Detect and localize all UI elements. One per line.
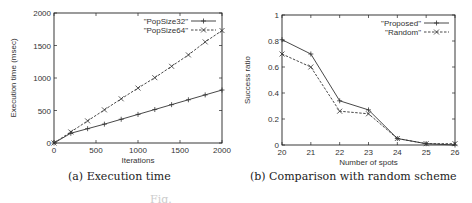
x-tick-label: 1000 — [129, 146, 147, 155]
y-tick-label: 500 — [38, 107, 52, 116]
y-tick-label: 0.4 — [268, 89, 280, 98]
y-axis-label: Success ratio — [243, 55, 252, 104]
caption-a: (a) Execution time — [68, 170, 171, 183]
series-0 — [52, 88, 225, 146]
y-tick-label: 1000 — [33, 74, 51, 83]
chart-execution-time: 05001000150020000500100015002000Iteratio… — [9, 9, 231, 165]
legend-label: "Random" — [385, 28, 421, 37]
x-tick-label: 21 — [306, 148, 315, 157]
plot-frame — [282, 15, 455, 145]
x-tick-label: 1500 — [171, 146, 189, 155]
x-tick-label: 26 — [451, 148, 460, 157]
y-tick-label: 0.8 — [268, 37, 280, 46]
legend-label: "Proposed" — [381, 19, 421, 28]
chart-success-ratio: 2021222324252600.20.40.60.81Number of sp… — [243, 11, 460, 167]
x-axis-label: Number of spots — [339, 158, 398, 167]
x-tick-label: 24 — [393, 148, 402, 157]
x-tick-label: 23 — [364, 148, 373, 157]
x-tick-label: 22 — [335, 148, 344, 157]
plot-frame — [54, 13, 222, 143]
caption-b: (b) Comparison with random scheme — [250, 170, 457, 183]
y-tick-label: 0.2 — [268, 115, 280, 124]
x-tick-label: 25 — [422, 148, 431, 157]
figure-caption: Fig. — [150, 193, 172, 203]
series-0 — [280, 37, 458, 147]
x-tick-label: 0 — [52, 146, 57, 155]
y-tick-label: 0 — [47, 139, 52, 148]
x-axis-label: Iterations — [122, 156, 155, 165]
y-tick-label: 0 — [275, 141, 280, 150]
x-tick-label: 500 — [89, 146, 103, 155]
y-tick-label: 1 — [275, 11, 280, 20]
y-tick-label: 0.6 — [268, 63, 280, 72]
y-tick-label: 2000 — [33, 9, 51, 18]
x-tick-label: 2000 — [213, 146, 231, 155]
y-tick-label: 1500 — [33, 42, 51, 51]
series-1 — [52, 28, 225, 145]
legend-label: "PopSize32" — [144, 17, 189, 26]
y-axis-label: Execution time (msec) — [9, 38, 18, 117]
series-1 — [280, 52, 458, 147]
legend-label: "PopSize64" — [144, 26, 189, 35]
